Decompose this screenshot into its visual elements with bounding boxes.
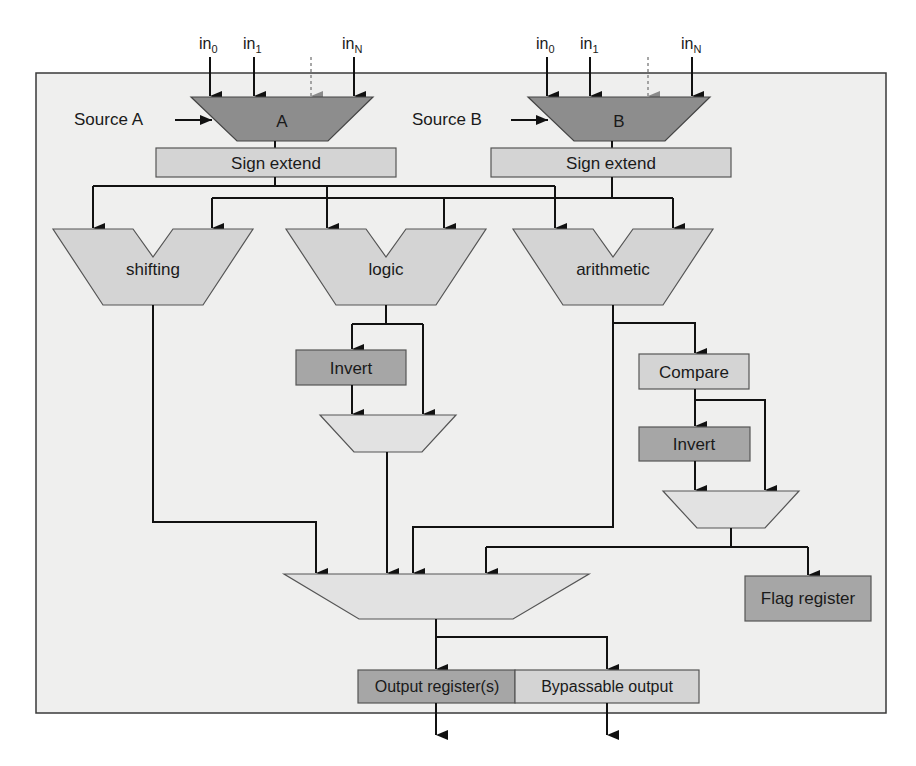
arithmetic-label: arithmetic [576,260,650,279]
output-register-label: Output register(s) [375,678,499,695]
input-a-in0-label: in0 [199,35,218,55]
mux-b-label: B [613,112,624,131]
input-a-inN-label: inN [342,35,362,55]
mux-a-label: A [276,112,288,131]
bypassable-output-label: Bypassable output [541,678,673,695]
logic-label: logic [369,260,404,279]
input-b-in1-label: in1 [580,35,599,55]
alu-diagram: in0 in1 inN Source A A Sign extend in0 i… [0,0,916,766]
logic-invert-label: Invert [330,359,373,378]
input-a-in1-label: in1 [243,35,262,55]
source-a-label: Source A [74,110,144,129]
input-b-in0-label: in0 [536,35,555,55]
sign-extend-b-label: Sign extend [566,154,656,173]
source-b-label: Source B [412,110,482,129]
compare-invert-label: Invert [673,435,716,454]
compare-label: Compare [659,363,729,382]
flag-register-label: Flag register [761,589,856,608]
shifting-label: shifting [126,260,180,279]
sign-extend-a-label: Sign extend [231,154,321,173]
input-b-inN-label: inN [681,35,701,55]
